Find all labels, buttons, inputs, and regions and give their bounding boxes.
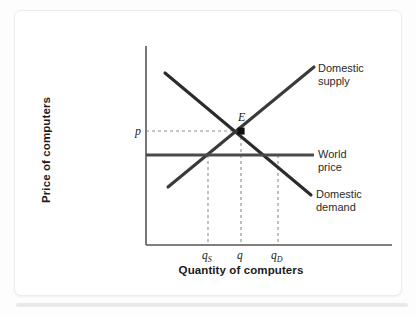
- domestic-supply-label-line2: supply: [318, 75, 350, 87]
- domestic-demand-label: Domestic demand: [316, 188, 362, 213]
- x-tick-qd-sub: D: [277, 255, 283, 264]
- world-price-label: World price: [318, 148, 347, 173]
- domestic-demand-label-line2: demand: [316, 201, 356, 213]
- y-axis-title: Price of computers: [40, 65, 52, 235]
- figure-root: Price of computers Quantity of computers…: [0, 0, 416, 315]
- equilibrium-point-marker: [238, 128, 245, 135]
- x-tick-qs-sub: S: [208, 255, 212, 264]
- y-tick-label-p: p: [135, 124, 141, 139]
- equilibrium-label: E: [238, 110, 245, 125]
- x-tick-label-q: q: [237, 249, 243, 261]
- world-price-label-line1: World: [318, 148, 347, 160]
- x-tick-q-base: q: [237, 249, 243, 261]
- domestic-demand-label-line1: Domestic: [316, 188, 362, 200]
- domestic-supply-label: Domestic supply: [318, 62, 364, 87]
- domestic-supply-label-line1: Domestic: [318, 62, 364, 74]
- world-price-label-line2: price: [318, 161, 342, 173]
- x-tick-label-qd: qD: [271, 249, 283, 264]
- x-tick-label-qs: qS: [202, 249, 212, 264]
- x-axis-title: Quantity of computers: [146, 264, 336, 276]
